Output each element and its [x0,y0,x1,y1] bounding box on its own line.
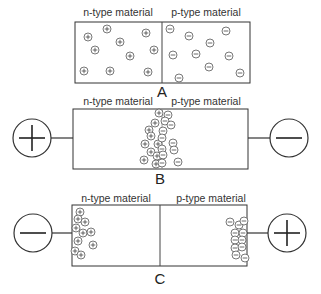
pn-junction-diagram: n-type material p-type material A n-type… [0,0,321,294]
negative-charge-icon [185,32,193,40]
positive-charge-icon [87,228,95,236]
positive-charge-icon [142,29,150,37]
negative-charge-icon [205,63,213,71]
positive-charge-icon [84,33,92,41]
positive-charge-icon [116,38,124,46]
negative-charge-icon [240,217,248,225]
negative-charge-icon [169,51,177,59]
negative-charge-icon [174,158,182,166]
panel-b-p-type-label: p-type material [171,95,240,107]
panel-b: n-type material p-type material B [13,95,308,187]
panel-b-right-terminal-minus-icon [270,119,308,157]
panel-c-p-type-label: p-type material [176,192,245,204]
positive-charge-icon [147,132,155,140]
negative-charge-icon [166,25,174,33]
negative-charge-icon [241,254,249,262]
negative-charge-icon [158,134,166,142]
negative-charge-icon [222,27,230,35]
positive-charge-icon [72,224,80,232]
positive-charge-icon [141,140,149,148]
panel-b-left-terminal-plus-icon [13,119,51,157]
positive-charge-icon [103,25,111,33]
negative-charge-icon [159,151,167,159]
positive-charge-icon [150,46,158,54]
panel-c-left-terminal-minus-icon [14,214,52,252]
panel-b-n-type-label: n-type material [83,95,152,107]
negative-charge-icon [167,121,175,129]
negative-charge-icon [175,74,183,82]
positive-charge-icon [79,229,87,237]
panel-a-label: A [157,83,167,100]
negative-charge-icon [170,146,178,154]
panel-b-charges [140,109,182,168]
negative-charge-icon [158,159,166,167]
panel-b-label: B [155,170,165,187]
positive-charge-icon [151,119,159,127]
negative-charge-icon [238,243,246,251]
panel-a: n-type material p-type material A [75,6,250,100]
positive-charge-icon [126,52,134,60]
negative-charge-icon [236,69,244,77]
negative-charge-icon [192,50,200,58]
panel-a-p-type-label: p-type material [171,6,240,18]
negative-charge-icon [232,251,240,259]
panel-c-label: C [155,270,166,287]
negative-charge-icon [225,52,233,60]
positive-charge-icon [77,251,85,259]
panel-a-n-type-label: n-type material [83,6,152,18]
panel-c-right-terminal-plus-icon [268,214,306,252]
positive-charge-icon [140,156,148,164]
positive-charge-icon [89,241,97,249]
positive-charge-icon [74,237,82,245]
positive-charge-icon [80,67,88,75]
positive-charge-icon [155,109,163,117]
negative-charge-icon [206,39,214,47]
positive-charge-icon [106,67,114,75]
panel-c: n-type material p-type material C [14,192,306,287]
positive-charge-icon [144,68,152,76]
panel-c-n-type-label: n-type material [81,192,150,204]
negative-charge-icon [226,218,234,226]
positive-charge-icon [81,218,89,226]
positive-charge-icon [91,46,99,54]
